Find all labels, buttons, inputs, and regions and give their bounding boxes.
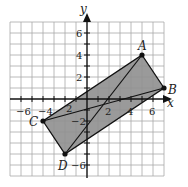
point-D-label: D [57, 159, 68, 173]
point-D-dot [62, 151, 67, 156]
point-B-dot [161, 85, 166, 90]
y-tick-neg2: −2 [71, 116, 86, 127]
y-axis-label: y [79, 2, 87, 16]
y-tick-4: 4 [76, 50, 82, 61]
coordinate-plane: y x A B C D −6 −4 2 4 6 6 4 2 −2 −6 2 [0, 0, 188, 187]
point-A-dot [139, 52, 144, 57]
x-tick-neg2: 2 [66, 103, 72, 114]
x-axis-label: x [167, 96, 174, 110]
point-A-label: A [137, 39, 147, 53]
point-C-label: C [29, 115, 38, 129]
x-tick-6: 6 [149, 106, 155, 117]
y-tick-6: 6 [76, 28, 82, 39]
x-tick-neg4: −4 [38, 106, 53, 117]
y-tick-neg6: −6 [71, 160, 86, 171]
x-tick-4: 4 [127, 106, 133, 117]
y-tick-2: 2 [76, 72, 82, 83]
point-B-label: B [167, 83, 177, 97]
point-C-dot [40, 118, 45, 123]
x-tick-neg6: −6 [16, 106, 31, 117]
x-tick-2: 2 [105, 106, 111, 117]
